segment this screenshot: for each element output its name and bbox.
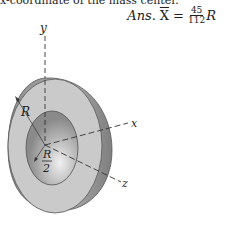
x-axis-label: x [131,117,138,130]
inner-radius-numerator: R [42,148,51,161]
inner-radius-denominator: 2 [42,162,50,175]
y-axis-label: y [39,21,47,35]
inner-hole [26,111,78,185]
hemisphere-shell-figure: y x z R R 2 [0,0,226,226]
outer-radius-label: R [20,105,30,119]
z-axis-label: z [121,177,128,190]
